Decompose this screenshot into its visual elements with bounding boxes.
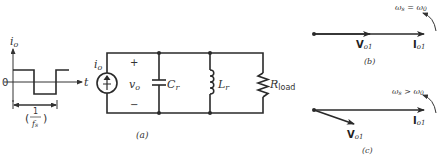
- node-dot: [208, 51, 212, 55]
- zero-label: 0: [2, 77, 8, 88]
- rotation-arrow-icon: [423, 95, 436, 113]
- frequency-condition-c: ωs > ω0: [392, 87, 424, 96]
- y-axis-label: io: [10, 35, 19, 49]
- plus-sign: +: [130, 57, 138, 68]
- phasor-diagram-c: Vo1 Io1 (c) ωs > ω0: [312, 87, 436, 155]
- i-phasor-label: Io1: [413, 39, 425, 51]
- period-label: ( 1 fs ): [25, 107, 47, 128]
- v-phasor-label: Vo1: [347, 129, 363, 141]
- source-label: io: [94, 58, 103, 72]
- svg-text:): ): [43, 112, 47, 125]
- rlc-circuit: io + vo − Cr Lr Rload (a): [94, 51, 295, 140]
- resistor-label: Rload: [269, 78, 295, 92]
- node-dot: [157, 51, 161, 55]
- inductor-coil: [210, 70, 214, 94]
- caption-c: (c): [362, 146, 373, 155]
- caption-a: (a): [136, 130, 149, 140]
- x-axis-label: t: [84, 76, 89, 89]
- period-denominator: fs: [31, 119, 38, 128]
- resistor: Rload: [258, 73, 295, 97]
- current-source: io: [94, 58, 117, 93]
- frequency-condition-b: ωs = ω0: [395, 3, 427, 12]
- v-phasor-label: Vo1: [356, 39, 372, 51]
- i-phasor-label: Io1: [413, 115, 425, 127]
- capacitor: Cr: [152, 53, 180, 113]
- phasor-diagram-b: Vo1 Io1 (b) ωs = ω0: [312, 3, 436, 66]
- square-wave-plot: io t 0 ( 1 fs ): [2, 35, 89, 128]
- caption-b: (b): [364, 57, 375, 66]
- inductor-label: Lr: [217, 78, 230, 92]
- voltage-label: vo: [129, 78, 140, 92]
- resistor-zigzag: [258, 73, 268, 97]
- minus-sign: −: [130, 99, 138, 110]
- current-arrow-icon: [104, 75, 111, 80]
- period-numerator: 1: [33, 107, 38, 116]
- node-dot: [208, 111, 212, 115]
- svg-text:(: (: [25, 112, 29, 125]
- node-dot: [157, 111, 161, 115]
- inductor: Lr: [210, 53, 230, 113]
- capacitor-label: Cr: [167, 78, 180, 92]
- diagram-canvas: io t 0 ( 1 fs ) io + vo −: [0, 0, 444, 159]
- v-phasor-arrow: [314, 110, 354, 124]
- rotation-arrow-icon: [423, 13, 436, 31]
